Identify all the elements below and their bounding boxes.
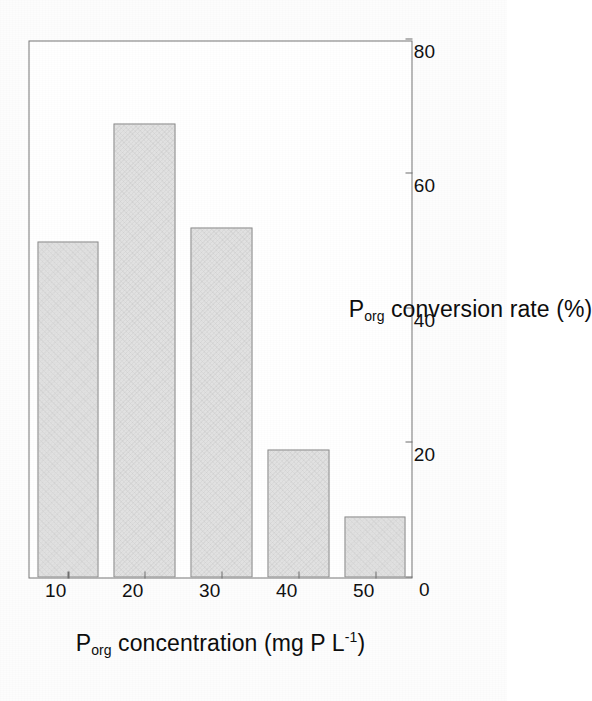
value-axis-tick-label: 80: [413, 40, 435, 62]
value-axis-title-subscript: org: [364, 308, 384, 324]
category-axis-title-rest: concentration (mg P L: [111, 630, 344, 656]
bar: [344, 516, 405, 577]
category-axis-title-lead: P: [75, 630, 90, 656]
value-axis-tick-label: 0: [419, 578, 430, 600]
category-axis-title-tail: ): [357, 630, 365, 656]
value-axis-tick: [405, 38, 412, 39]
value-axis-tick: [405, 441, 412, 442]
value-axis-tick-label: 20: [413, 444, 435, 466]
bar: [37, 241, 98, 577]
bar: [267, 449, 328, 577]
category-axis-title-subscript: org: [91, 642, 111, 658]
value-axis-title: Porg conversion rate (%): [348, 296, 592, 323]
value-axis-tick: [405, 576, 412, 577]
category-axis-tick-label: 40: [275, 579, 297, 601]
value-axis-tick: [405, 172, 412, 173]
category-axis-tick-label: 50: [352, 579, 374, 601]
bar: [113, 123, 174, 577]
category-axis-tick: [67, 571, 68, 578]
category-axis-tick-label: 10: [45, 579, 67, 601]
category-axis-tick: [144, 571, 145, 578]
value-axis-title-rest: conversion rate (%): [384, 296, 592, 322]
bar: [190, 227, 251, 577]
category-axis-tick: [298, 571, 299, 578]
category-axis-tick: [221, 571, 222, 578]
value-axis-tick-label: 60: [413, 175, 435, 197]
category-axis-title: Porg concentration (mg P L-1): [75, 630, 364, 657]
value-axis-title-lead: P: [348, 296, 363, 322]
category-axis-tick-label: 30: [198, 579, 220, 601]
category-axis-tick-label: 20: [122, 579, 144, 601]
category-axis-tick: [375, 571, 376, 578]
category-axis-title-superscript: -1: [344, 629, 357, 645]
